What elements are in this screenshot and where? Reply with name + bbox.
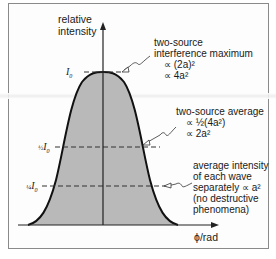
annotation-line: ∝ (2a)²	[154, 59, 253, 70]
y-axis-label: relative intensity	[58, 13, 97, 37]
annotation-line: ∝ ½(4a²)	[176, 117, 264, 128]
tick-label-max: I0	[66, 66, 72, 82]
average-pointer-arrow-icon	[143, 140, 150, 145]
annotation-line: two-source average	[176, 106, 264, 117]
single-pointer-arrow-icon	[164, 183, 171, 188]
tick-sub: 0	[47, 148, 50, 154]
y-axis-arrow-icon	[100, 22, 106, 30]
annotation-line: of each wave	[193, 171, 269, 182]
annotation-line: separately ∝ a²	[193, 182, 269, 193]
y-axis-label-line1: relative	[58, 13, 97, 25]
tick-sub: 0	[35, 187, 38, 193]
annotation-line: ∝ 4a²	[154, 70, 253, 81]
annotation-line: phenomena)	[193, 204, 269, 215]
average-pointer	[146, 127, 176, 143]
y-axis-label-line2: intensity	[58, 25, 97, 37]
x-axis-arrow-icon	[211, 222, 219, 228]
annotation-line: interference maximum	[154, 48, 253, 59]
annotation-maximum: two-source interference maximum ∝ (2a)² …	[154, 37, 253, 81]
annotation-average: two-source average ∝ ½(4a²) ∝ 2a²	[176, 106, 264, 139]
annotation-single: average intensity of each wave separatel…	[193, 160, 269, 215]
annotation-line: average intensity	[193, 160, 269, 171]
max-pointer-arrow-icon	[122, 67, 129, 72]
tick-sub: 0	[69, 73, 72, 79]
x-axis-label: ϕ/rad	[194, 232, 218, 243]
tick-label-half: ½I0	[38, 141, 50, 157]
annotation-line: ∝ 2a²	[176, 128, 264, 139]
tick-label-quarter: ¼I0	[26, 180, 38, 196]
annotation-line: (no destructive	[193, 193, 269, 204]
annotation-line: two-source	[154, 37, 253, 48]
